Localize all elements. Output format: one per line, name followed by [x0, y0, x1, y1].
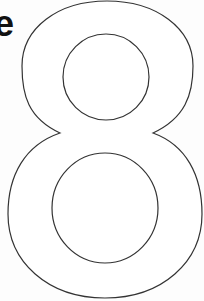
outlined-digit-eight: [0, 0, 204, 301]
digit-lower-counter: [52, 153, 158, 263]
illustration-canvas: e: [0, 0, 204, 301]
digit-upper-counter: [63, 34, 149, 120]
